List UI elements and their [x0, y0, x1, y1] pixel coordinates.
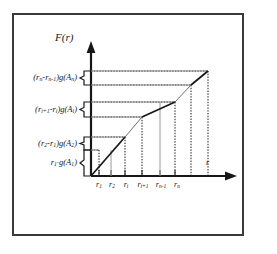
- bracket-label-4: (rn-rn-1)g(An): [33, 73, 77, 83]
- x-axis: [91, 172, 237, 181]
- y-axis-label: F(r): [55, 32, 73, 43]
- step-horizontals: [91, 71, 208, 150]
- ramp-polyline: [91, 71, 208, 176]
- block-outlines: [125, 85, 191, 137]
- horizontal-guides: [91, 71, 208, 150]
- x-tick-label-ri: ri: [124, 181, 129, 190]
- vertical-drop-lines: [99, 71, 208, 176]
- bracket-label-2: (r2-r1)g(A2): [38, 138, 77, 148]
- figure-root: F(r) r r1·g(A1) (r2-r1)g(A2) (ri+1-ri)g(…: [0, 0, 277, 254]
- bracket-label-3: (ri+1-ri)g(Ai): [35, 104, 77, 114]
- step-verticals: [111, 102, 160, 176]
- x-tick-label-r2: r2: [109, 181, 115, 190]
- plot-canvas: [0, 0, 277, 254]
- x-tick-label-r1: r1: [96, 181, 102, 190]
- bracket-label-1: r1·g(A1): [51, 158, 77, 168]
- x-axis-label: r: [206, 158, 209, 167]
- y-axis: [87, 41, 96, 176]
- x-tick-label-rn: rn: [174, 181, 180, 190]
- y-axis-brackets: [80, 71, 90, 176]
- x-tick-label-ri1: ri+1: [137, 181, 148, 190]
- x-tick-label-rn1: rn-1: [156, 181, 166, 190]
